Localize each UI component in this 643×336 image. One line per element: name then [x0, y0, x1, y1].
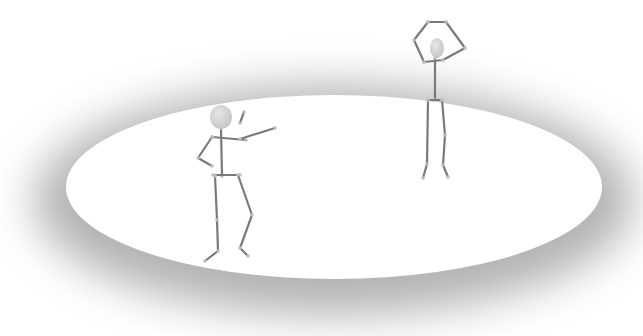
joint [441, 163, 445, 167]
scene [0, 0, 643, 336]
joint [443, 133, 447, 137]
joint [216, 249, 220, 253]
joint [422, 60, 426, 64]
joint [238, 121, 242, 125]
joint [426, 98, 430, 102]
joint [196, 156, 200, 160]
limb [424, 60, 443, 62]
joint [238, 137, 242, 141]
joint [426, 20, 430, 24]
joint [412, 38, 416, 42]
limb [221, 128, 222, 176]
joint [273, 126, 277, 130]
joint [210, 135, 214, 139]
joint [215, 218, 219, 222]
joint [444, 20, 448, 24]
joint [421, 176, 425, 180]
head [430, 38, 444, 58]
limb [414, 22, 428, 62]
joint [446, 175, 450, 179]
joint [210, 164, 214, 168]
joint [246, 254, 250, 258]
joint [425, 162, 429, 166]
joint [250, 213, 254, 217]
limb [443, 22, 465, 60]
joint [238, 246, 242, 250]
joint [213, 174, 217, 178]
head [210, 105, 232, 129]
joint [203, 259, 207, 263]
stage-canvas [0, 0, 643, 336]
joint [236, 173, 240, 177]
joint [440, 98, 444, 102]
joint [463, 46, 467, 50]
platform [66, 95, 602, 279]
joint [244, 138, 248, 142]
joint [242, 110, 246, 114]
joint [441, 58, 445, 62]
